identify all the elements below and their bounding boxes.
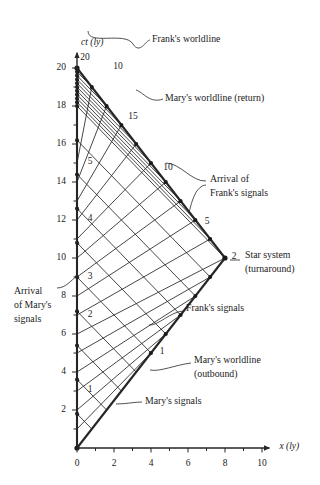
y-tick-label: 10: [57, 252, 67, 262]
y-tick-label: 8: [61, 290, 66, 300]
event-dot: [222, 255, 227, 260]
mary-signal-ray: [77, 209, 181, 315]
y-tick-label: 14: [57, 176, 67, 186]
marys-worldline-outbound-l2: (outbound): [194, 368, 238, 380]
frank-count-1: 1: [88, 384, 93, 394]
x-tick-label: 8: [223, 458, 228, 468]
frank-count-2: 2: [88, 309, 93, 319]
mary-signal-ray: [77, 106, 225, 258]
frank-signal-arrival-dot: [164, 180, 168, 184]
y-tick-label: 4: [61, 366, 66, 376]
mary-signal-ray: [77, 243, 166, 334]
frank-signal-ray: [77, 258, 225, 334]
frank-signal-arrival-dot: [134, 142, 138, 146]
x-tick-label: 4: [149, 458, 154, 468]
figure-canvas: 24681002468101214161820x (ly)ct (ly)2010…: [0, 0, 320, 485]
frank-signal-arrival-dot: [193, 294, 197, 298]
arrival-of-franks-signals-l1: Arrival of: [210, 173, 250, 184]
y-tick-label: 18: [57, 100, 67, 110]
frank-signal-arrival-dot: [149, 351, 153, 355]
y-tick-label: 12: [57, 214, 67, 224]
arrival-of-marys-signals-l2: of Mary's: [14, 299, 52, 310]
y-axis-label: ct (ly): [81, 37, 103, 48]
star-count-2: 2: [232, 251, 237, 261]
x-tick-label: 2: [112, 458, 117, 468]
mary-signal-ray: [77, 79, 121, 125]
leader-marys-worldline-outbound: [150, 363, 191, 370]
frank-signal-arrival-dot: [179, 199, 183, 203]
mary-count-5: 5: [205, 216, 210, 226]
labels-group: 24681002468101214161820x (ly)ct (ly)2010…: [14, 33, 299, 468]
frank-signal-arrival-dot: [208, 275, 212, 279]
frank-signal-arrival-dot: [208, 237, 212, 241]
leader-arrival-marys-signals: [57, 277, 76, 288]
leader-arrival-franks-signals-b: [189, 185, 206, 213]
arrival-of-franks-signals-l2: Frank's signals: [210, 187, 268, 198]
marys-signals: Mary's signals: [145, 395, 202, 406]
mary-signal-ray: [77, 174, 195, 296]
frank-signal-ray: [77, 125, 121, 201]
frank-signal-arrival-dot: [179, 313, 183, 317]
star-system-l1: Star system: [245, 249, 291, 260]
leader-marys-signals: [116, 402, 142, 404]
frank-signal-ray: [77, 277, 210, 353]
x-axis-label: x (ly): [278, 441, 299, 452]
frank-count-5: 5: [88, 156, 93, 166]
mary-signal-ray: [77, 311, 136, 372]
mary-signal-ray: [77, 91, 166, 182]
frank-signal-arrival-dot: [105, 104, 109, 108]
frank-signal-arrival-dot: [193, 218, 197, 222]
spacetime-diagram: 24681002468101214161820x (ly)ct (ly)2010…: [0, 0, 320, 485]
x-tick-label: 6: [186, 458, 191, 468]
y-tick-label: 16: [57, 138, 67, 148]
frank-count-4: 4: [88, 213, 93, 223]
arrival-of-marys-signals-l3: signals: [14, 313, 41, 324]
frank-signal-arrival-dot: [149, 161, 153, 165]
mary-count-1: 1: [160, 346, 165, 356]
frank-signal-arrival-dot: [90, 85, 94, 89]
frank-signal-ray: [77, 296, 195, 372]
frank-signal-arrival-dot: [119, 123, 123, 127]
arrival-of-marys-signals-l1: Arrival: [14, 285, 43, 296]
y-tick-label: 20: [57, 62, 67, 72]
x-tick-label: 10: [257, 458, 267, 468]
mary-count-15: 15: [128, 111, 138, 121]
frank-count-3: 3: [88, 271, 93, 281]
mary-count-10: 10: [163, 162, 173, 172]
marys-worldline-return: Mary's worldline (return): [165, 92, 264, 104]
star-system-l2: (turnaround): [245, 263, 295, 275]
marys-worldline-outbound-l1: Mary's worldline: [194, 354, 261, 365]
leader-marys-worldline-return: [136, 90, 163, 100]
y-tick-label: 6: [61, 328, 66, 338]
x-tick-label-zero: 0: [75, 458, 80, 468]
frank-signal-ray: [77, 163, 151, 239]
franks-worldline: Frank's worldline: [152, 33, 221, 44]
y-tick-label: 2: [61, 404, 66, 414]
frank-signal-arrival-dot: [164, 332, 168, 336]
frank-count-20: 20: [80, 52, 90, 62]
mary-count-10-apex: 10: [113, 61, 123, 71]
franks-signals: Frank's signals: [186, 302, 244, 313]
